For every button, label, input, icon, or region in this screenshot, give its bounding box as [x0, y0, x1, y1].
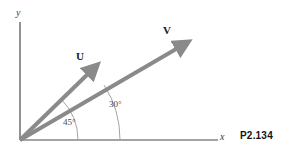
vector-v-arrow	[20, 45, 183, 140]
vector-label-u: U	[76, 50, 84, 62]
vector-label-v: V	[163, 24, 171, 36]
angle-label-30: 30°	[109, 99, 122, 109]
angle-arc-30	[104, 85, 120, 140]
y-axis-label: y	[16, 7, 20, 18]
x-axis-label: x	[220, 131, 224, 142]
problem-identifier: P2.134	[240, 130, 273, 141]
vector-diagram-figure: y x U V 45° 30° P2.134	[0, 0, 290, 153]
angle-label-45: 45°	[63, 117, 76, 127]
